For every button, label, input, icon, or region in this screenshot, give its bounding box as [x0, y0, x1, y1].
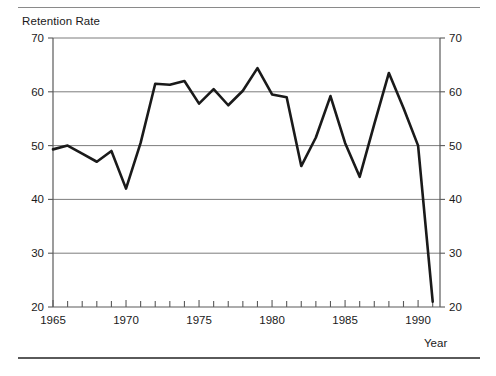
svg-text:1975: 1975	[186, 314, 212, 326]
axes-frame	[53, 38, 440, 307]
svg-text:70: 70	[31, 32, 44, 44]
svg-text:20: 20	[31, 301, 44, 313]
y-axis-ticks-right: 203040506070	[440, 32, 462, 313]
svg-text:1985: 1985	[332, 314, 358, 326]
svg-text:40: 40	[449, 193, 462, 205]
svg-text:1965: 1965	[40, 314, 66, 326]
svg-text:40: 40	[31, 193, 44, 205]
line-chart-plot: 203040506070 203040506070 19651970197519…	[0, 0, 496, 376]
svg-text:70: 70	[449, 32, 462, 44]
svg-text:30: 30	[449, 247, 462, 259]
svg-text:60: 60	[449, 86, 462, 98]
x-axis-label: Year	[424, 337, 447, 349]
svg-text:30: 30	[31, 247, 44, 259]
gridlines-group	[53, 38, 440, 253]
svg-text:1970: 1970	[113, 314, 139, 326]
svg-text:20: 20	[449, 301, 462, 313]
data-series-line	[53, 68, 433, 301]
figure-container: Retention Rate 203040506070 203040506070…	[0, 0, 496, 376]
svg-text:50: 50	[31, 140, 44, 152]
svg-text:50: 50	[449, 140, 462, 152]
bottom-divider-rule	[18, 357, 480, 359]
svg-text:60: 60	[31, 86, 44, 98]
svg-text:1980: 1980	[259, 314, 285, 326]
x-axis-ticks: 196519701975198019851990	[40, 300, 432, 326]
y-axis-ticks-left: 203040506070	[31, 32, 53, 313]
svg-text:1990: 1990	[405, 314, 431, 326]
